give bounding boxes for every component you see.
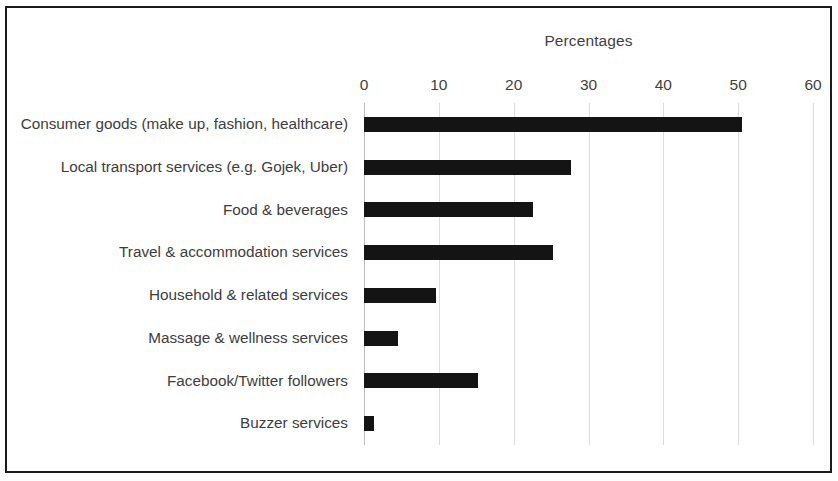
chart-figure: Percentages 0102030405060 Consumer goods… xyxy=(0,0,838,481)
category-axis-labels: Consumer goods (make up, fashion, health… xyxy=(0,103,356,445)
x-tick-label-20: 20 xyxy=(494,76,534,94)
plot-area xyxy=(364,103,813,445)
chart-title: Percentages xyxy=(364,32,813,50)
bar xyxy=(364,331,398,346)
bar xyxy=(364,288,436,303)
bar xyxy=(364,373,478,388)
category-label: Consumer goods (make up, fashion, health… xyxy=(0,103,348,146)
category-label: Travel & accommodation services xyxy=(0,231,348,274)
gridline-0 xyxy=(364,103,365,445)
x-tick-label-30: 30 xyxy=(569,76,609,94)
bar xyxy=(364,117,742,132)
bar xyxy=(364,160,571,175)
category-label: Massage & wellness services xyxy=(0,317,348,360)
gridline-40 xyxy=(663,103,664,445)
bar xyxy=(364,416,374,431)
x-tick-label-0: 0 xyxy=(344,76,384,94)
gridline-20 xyxy=(514,103,515,445)
category-label: Facebook/Twitter followers xyxy=(0,360,348,403)
x-tick-label-60: 60 xyxy=(793,76,833,94)
category-label: Household & related services xyxy=(0,274,348,317)
x-tick-label-40: 40 xyxy=(643,76,683,94)
category-label: Food & beverages xyxy=(0,189,348,232)
gridline-60 xyxy=(813,103,814,445)
x-tick-label-50: 50 xyxy=(718,76,758,94)
bar xyxy=(364,202,533,217)
gridline-30 xyxy=(589,103,590,445)
gridline-50 xyxy=(738,103,739,445)
gridline-10 xyxy=(439,103,440,445)
x-tick-label-10: 10 xyxy=(419,76,459,94)
category-label: Buzzer services xyxy=(0,402,348,445)
category-label: Local transport services (e.g. Gojek, Ub… xyxy=(0,146,348,189)
bar xyxy=(364,245,553,260)
